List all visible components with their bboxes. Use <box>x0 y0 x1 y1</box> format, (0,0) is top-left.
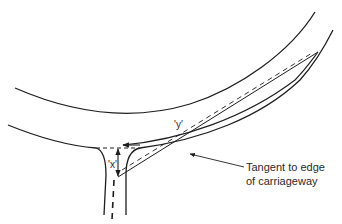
tangent-label-line2: of carriageway <box>246 175 318 187</box>
junction-visibility-diagram: 'x' 'y' Tangent to edge of carriageway <box>0 0 342 224</box>
side-road-right-kerb <box>126 148 140 215</box>
sight-line-tangent <box>118 52 318 177</box>
y-dimension-label: 'y' <box>174 119 183 130</box>
tangent-label-line1: Tangent to edge <box>246 161 325 173</box>
side-road-left-kerb <box>96 148 106 215</box>
side-road-centre-line <box>112 180 114 220</box>
main-road-far-edge <box>15 12 315 113</box>
carriageway-edge-line <box>123 52 318 145</box>
x-dimension-label: 'x' <box>108 159 117 170</box>
main-road-near-edge-left <box>8 125 96 148</box>
tangent-label-leader <box>190 154 244 167</box>
main-road-near-edge-right <box>140 30 333 148</box>
